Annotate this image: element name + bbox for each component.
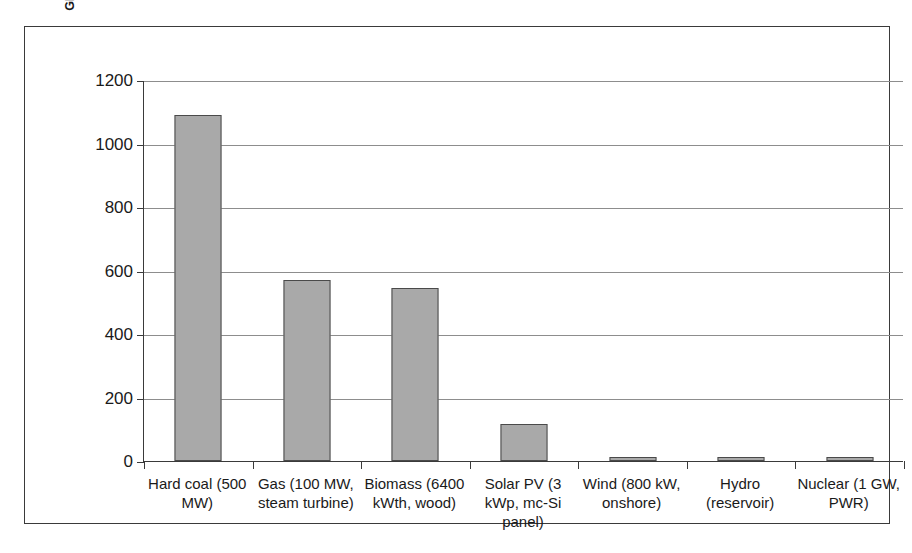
x-axis-tick-mark bbox=[578, 461, 579, 469]
bar-slot bbox=[795, 81, 904, 461]
y-axis-tick-label: 400 bbox=[73, 325, 133, 345]
x-axis-label-line: PWR) bbox=[794, 493, 903, 512]
x-axis-label-line: Wind (800 kW, bbox=[577, 474, 686, 493]
x-axis-label-line: Nuclear (1 GW, bbox=[794, 474, 903, 493]
x-axis-tick-mark bbox=[904, 461, 905, 469]
y-axis-tick-mark bbox=[137, 81, 144, 82]
x-axis-label: Hydro(reservoir) bbox=[686, 474, 795, 512]
x-axis-label: Solar PV (3kWp, mc-Sipanel) bbox=[469, 474, 578, 531]
x-axis-label: Gas (100 MW,steam turbine) bbox=[252, 474, 361, 512]
bar-slot bbox=[253, 81, 362, 461]
y-axis-tick-mark bbox=[137, 208, 144, 209]
bar[interactable] bbox=[392, 288, 439, 461]
x-axis-tick-mark bbox=[470, 461, 471, 469]
bar[interactable] bbox=[175, 115, 222, 461]
x-axis-tick-mark bbox=[795, 461, 796, 469]
chart-figure-frame: Global Warming Potential (g CO2 eq./kWh)… bbox=[24, 26, 890, 524]
x-axis-tick-mark bbox=[144, 461, 145, 469]
x-axis-label-line: steam turbine) bbox=[252, 493, 361, 512]
plot-area: 020040060080010001200 bbox=[143, 81, 903, 462]
x-axis-label-line: Solar PV (3 bbox=[469, 474, 578, 493]
x-axis-label: Nuclear (1 GW,PWR) bbox=[794, 474, 903, 512]
x-axis-label-line: panel) bbox=[469, 512, 578, 531]
x-axis-label: Hard coal (500MW) bbox=[143, 474, 252, 512]
bar[interactable] bbox=[718, 457, 765, 461]
x-axis-label: Wind (800 kW,onshore) bbox=[577, 474, 686, 512]
bar[interactable] bbox=[500, 424, 547, 461]
y-axis-tick-mark bbox=[137, 335, 144, 336]
bar-slot bbox=[578, 81, 687, 461]
x-axis-tick-mark bbox=[253, 461, 254, 469]
y-axis-tick-label: 800 bbox=[73, 198, 133, 218]
y-axis-tick-mark bbox=[137, 399, 144, 400]
x-axis-tick-mark bbox=[687, 461, 688, 469]
bar-slot bbox=[470, 81, 579, 461]
x-axis-label-line: onshore) bbox=[577, 493, 686, 512]
x-axis-label-line: Gas (100 MW, bbox=[252, 474, 361, 493]
y-axis-tick-mark bbox=[137, 462, 144, 463]
y-axis-tick-label: 600 bbox=[73, 262, 133, 282]
x-axis-tick-mark bbox=[361, 461, 362, 469]
x-axis-label-line: MW) bbox=[143, 493, 252, 512]
bar-slot bbox=[687, 81, 796, 461]
y-axis-tick-mark bbox=[137, 272, 144, 273]
x-axis-label: Biomass (6400kWth, wood) bbox=[360, 474, 469, 512]
x-axis-label-line: (reservoir) bbox=[686, 493, 795, 512]
y-axis-tick-label: 0 bbox=[73, 452, 133, 472]
x-axis-label-line: Biomass (6400 bbox=[360, 474, 469, 493]
bar[interactable] bbox=[609, 457, 656, 461]
x-axis-label-line: Hard coal (500 bbox=[143, 474, 252, 493]
y-axis-tick-mark bbox=[137, 145, 144, 146]
bar[interactable] bbox=[826, 457, 873, 461]
y-axis-tick-label: 200 bbox=[73, 389, 133, 409]
x-axis-label-line: Hydro bbox=[686, 474, 795, 493]
y-axis-tick-label: 1000 bbox=[73, 135, 133, 155]
x-axis-label-line: kWth, wood) bbox=[360, 493, 469, 512]
x-axis-label-line: kWp, mc-Si bbox=[469, 493, 578, 512]
x-axis-labels: Hard coal (500MW)Gas (100 MW,steam turbi… bbox=[143, 474, 903, 544]
y-axis-tick-label: 1200 bbox=[73, 71, 133, 91]
bar-slot bbox=[361, 81, 470, 461]
bar[interactable] bbox=[283, 280, 330, 461]
bar-slot bbox=[144, 81, 253, 461]
